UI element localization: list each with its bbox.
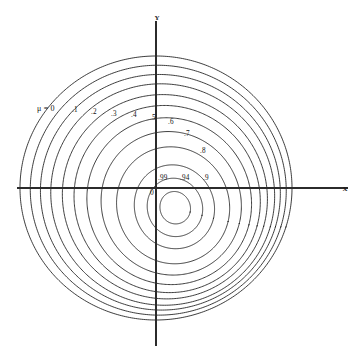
limit-cycle-curve [117,147,230,264]
mu-label-p7: .7 [184,130,190,138]
mu-label-p9: .9 [203,174,209,182]
mu-label-p3: .3 [111,110,117,118]
limit-cycle-curve [51,84,275,305]
limit-cycle-curve [30,65,286,315]
limit-cycle-curve [101,132,241,276]
mu-label-0: μ = 0 [37,104,55,113]
limit-cycle-curve [62,95,267,299]
mu-label-p1: .1 [72,106,78,114]
origin-label: 0 [150,188,154,197]
limit-cycle-curve [74,105,260,292]
figure-root: X Y μ = 0.1.2.3.4.5.6.7.8.9.94.99 0 [0,0,361,355]
mu-label-p94: .94 [180,174,190,182]
axes-group [17,21,348,346]
y-axis-label: Y [154,14,159,22]
mu-label-p8: .8 [200,147,206,155]
x-axis-label: X [342,185,347,193]
mu-label-p99: .99 [158,174,168,182]
mu-label-p4: .4 [131,111,137,119]
limit-cycle-curve [87,118,252,285]
mu-label-p6: .6 [168,118,174,126]
mu-label-p2: .2 [91,108,97,116]
mu-label-p5: .5 [150,114,156,122]
limit-cycle-curve [160,192,191,224]
